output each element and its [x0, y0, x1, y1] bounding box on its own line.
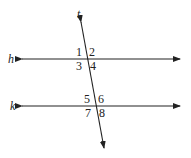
label-k: k: [10, 99, 16, 113]
angle-7: 7: [85, 106, 91, 120]
angle-4: 4: [90, 59, 96, 73]
diagram: t h k 1 2 3 4 5 6 7 8: [0, 0, 191, 158]
angle-5: 5: [84, 92, 90, 106]
label-h: h: [8, 52, 14, 66]
line-t: [81, 22, 104, 148]
angle-8: 8: [99, 106, 105, 120]
angle-6: 6: [98, 92, 104, 106]
angle-3: 3: [76, 59, 82, 73]
angle-2: 2: [89, 45, 95, 59]
label-t: t: [77, 7, 81, 21]
diagram-svg: t h k 1 2 3 4 5 6 7 8: [0, 0, 191, 158]
angle-1: 1: [76, 45, 82, 59]
